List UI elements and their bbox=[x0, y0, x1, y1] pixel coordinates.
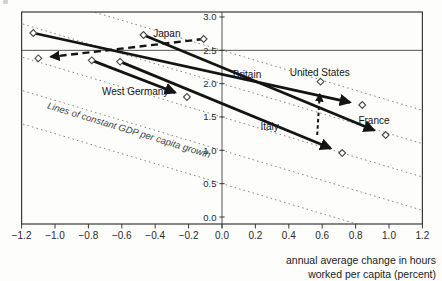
x-tick-label: −0.4 bbox=[145, 230, 165, 241]
y-tick-label: 0.5 bbox=[203, 178, 216, 189]
y-tick-label: 0.0 bbox=[203, 212, 216, 223]
x-tick-label: −0.8 bbox=[79, 230, 99, 241]
x-tick-label: −1.0 bbox=[45, 230, 65, 241]
x-tick-label: 1.0 bbox=[382, 230, 396, 241]
chart-figure: −1.2−1.0−0.8−0.6−0.4−0.20.00.20.40.60.81… bbox=[0, 0, 442, 281]
united-states-arrow bbox=[317, 94, 320, 135]
britain-label: Britain bbox=[233, 69, 261, 80]
united-states-label: United States bbox=[290, 67, 350, 78]
france-arrow bbox=[144, 35, 375, 130]
britain-point bbox=[359, 102, 366, 109]
x-tick-label: 0.6 bbox=[315, 230, 329, 241]
x-tick-label: 1.2 bbox=[415, 230, 429, 241]
japan-point bbox=[200, 36, 207, 43]
productivity-hours-scatter-chart: −1.2−1.0−0.8−0.6−0.4−0.20.00.20.40.60.81… bbox=[0, 0, 442, 281]
y-tick-label: 2.5 bbox=[203, 45, 216, 56]
west-germany-point bbox=[184, 94, 191, 101]
x-tick-label: −0.2 bbox=[179, 230, 199, 241]
y-tick-label: 1.5 bbox=[203, 111, 216, 122]
x-axis-title-line-1: annual average change in hours bbox=[286, 254, 436, 266]
x-tick-label: 0.0 bbox=[215, 230, 229, 241]
france-point bbox=[382, 132, 389, 139]
x-tick-label: 0.8 bbox=[349, 230, 363, 241]
x-tick-label: −0.6 bbox=[112, 230, 132, 241]
y-tick-label: 2.0 bbox=[203, 78, 216, 89]
britain-point bbox=[30, 30, 37, 37]
japan-label: Japan bbox=[153, 28, 180, 39]
united-states-point bbox=[317, 78, 324, 85]
y-tick-label: 3.0 bbox=[203, 11, 216, 22]
japan-point bbox=[35, 55, 42, 62]
x-tick-label: −1.2 bbox=[12, 230, 32, 241]
x-tick-label: 0.4 bbox=[282, 230, 296, 241]
constant-gdp-lines-caption: Lines of constant GDP per capita growth bbox=[46, 100, 212, 160]
italy-label: Italy bbox=[260, 121, 278, 132]
x-tick-label: 0.2 bbox=[248, 230, 262, 241]
west-germany-label: West Germany bbox=[102, 86, 169, 97]
x-axis-title-line-2: worked per capita (percent) bbox=[307, 268, 436, 280]
france-label: France bbox=[358, 115, 390, 126]
italy-point bbox=[339, 150, 346, 157]
